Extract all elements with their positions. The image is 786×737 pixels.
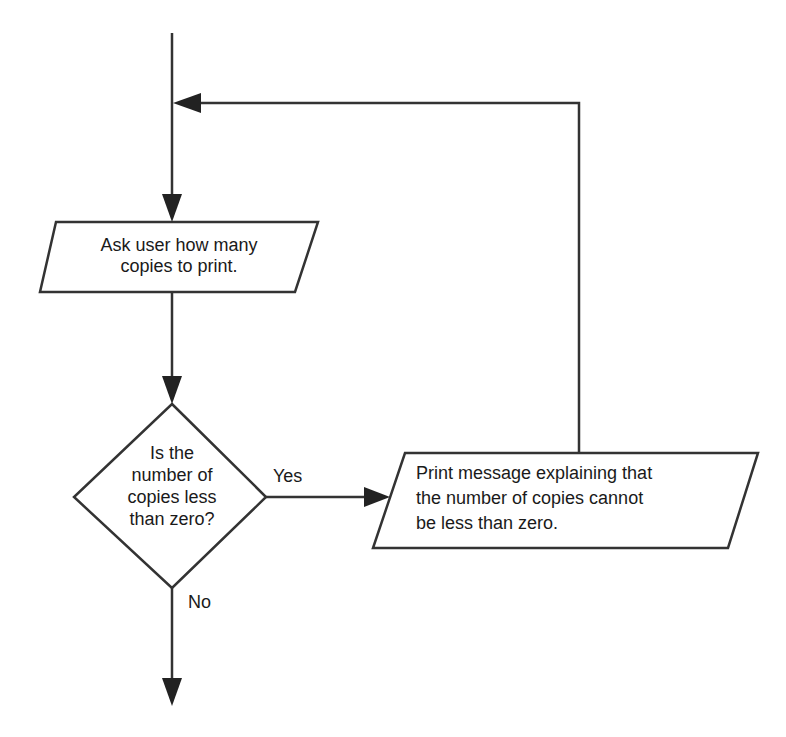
arrow-down-icon (162, 376, 182, 404)
arrow-left-icon (173, 93, 201, 113)
decision-node-text: Is the number of copies less than zero? (82, 442, 262, 530)
decision-line-2: number of (82, 464, 262, 486)
input-line-1: Ask user how many (50, 235, 308, 256)
arrow-down-icon (162, 678, 182, 706)
decision-line-4: than zero? (82, 508, 262, 530)
no-label: No (188, 592, 211, 613)
flowchart-canvas (0, 0, 786, 737)
output-node-text: Print message explaining that the number… (416, 461, 746, 536)
arrow-right-icon (364, 487, 390, 507)
decision-line-3: copies less (82, 486, 262, 508)
input-node-text: Ask user how many copies to print. (50, 235, 308, 277)
output-line-3: be less than zero. (416, 511, 746, 536)
decision-line-1: Is the (82, 442, 262, 464)
arrow-down-icon (162, 194, 182, 222)
output-line-1: Print message explaining that (416, 461, 746, 486)
output-line-2: the number of copies cannot (416, 486, 746, 511)
yes-label: Yes (273, 466, 302, 487)
input-line-2: copies to print. (50, 256, 308, 277)
